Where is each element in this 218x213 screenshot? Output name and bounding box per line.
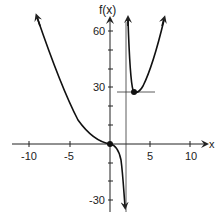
x-tick-label-5: 5 <box>147 151 153 162</box>
curve-left-branch <box>37 17 125 206</box>
x-axis-label: x <box>209 139 215 150</box>
x-tick-label-neg10: -10 <box>21 151 37 162</box>
y-tick-label-60: 60 <box>93 26 105 37</box>
y-tick-label-30: 30 <box>93 82 105 93</box>
x-tick-label-neg5: -5 <box>64 151 74 162</box>
graph-canvas <box>0 0 218 213</box>
curve-right-branch <box>128 20 164 92</box>
minimum-point <box>131 89 137 95</box>
origin-point <box>107 141 113 147</box>
curve-left-top-arrow <box>37 17 40 26</box>
x-tick-label-10: 10 <box>185 151 197 162</box>
function-graph: f(x) 60 30 -30 -10 -5 5 10 x <box>0 0 218 213</box>
y-tick-label-neg30: -30 <box>89 195 105 206</box>
curve-right-arrow-up-2 <box>162 19 164 26</box>
y-axis-label: f(x) <box>99 4 116 16</box>
